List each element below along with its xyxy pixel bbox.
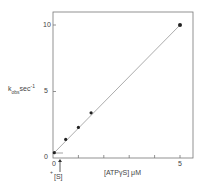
x-ticks [78, 155, 180, 158]
chart-canvas [0, 0, 204, 192]
y-tick-label-10: 10 [43, 21, 51, 28]
y-axis-label: kobssec-1 [8, 83, 35, 95]
y-ticks [53, 25, 56, 92]
y-tick-label-5: 5 [44, 87, 48, 94]
fit-line [53, 25, 180, 154]
x-tick-label-0: 0 [52, 160, 56, 167]
y-tick-label-0: 0 [44, 153, 48, 160]
x-tick-label-5: 5 [178, 160, 182, 167]
plus-sign: + [50, 169, 53, 175]
s-arrow-head-icon [58, 159, 62, 162]
plot-frame [53, 12, 193, 158]
s-marker-label: [S] [54, 173, 63, 180]
x-axis-label: [ATPγS] μM [104, 169, 141, 176]
